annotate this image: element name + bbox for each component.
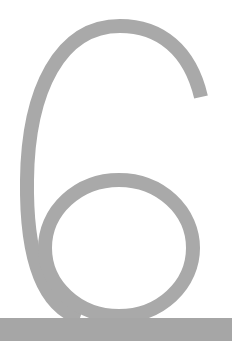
bottom-bar	[0, 318, 232, 341]
chapter-number-six	[0, 0, 232, 341]
